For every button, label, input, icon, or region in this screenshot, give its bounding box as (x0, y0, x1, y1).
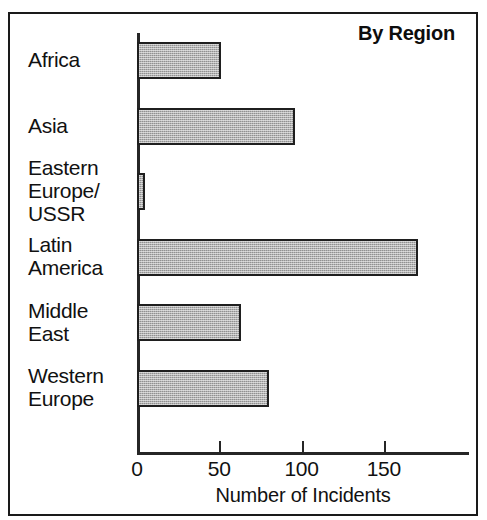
category-label-eastern-europe-ussr: EasternEurope/USSR (28, 156, 134, 225)
chart-title: By Region (358, 22, 455, 45)
category-label-line: Asia (28, 114, 134, 137)
bar-africa (137, 42, 221, 79)
category-label-line: America (28, 256, 134, 279)
category-label-middle-east: MiddleEast (28, 299, 134, 345)
category-label-line: Africa (28, 48, 134, 71)
x-tick-label-0: 0 (107, 457, 167, 481)
category-label-line: East (28, 322, 134, 345)
x-tick-label-50: 50 (189, 457, 249, 481)
x-axis-title: Number of Incidents (137, 484, 469, 507)
x-axis-line (137, 452, 469, 455)
category-label-line: Eastern (28, 156, 134, 179)
x-tick-100 (302, 441, 304, 452)
x-tick-50 (219, 441, 221, 452)
bar-chart-figure: By Region AfricaAsiaEasternEurope/USSRLa… (0, 0, 487, 520)
category-label-line: Latin (28, 233, 134, 256)
bar-middle-east (137, 304, 241, 341)
bar-eastern-europe-ussr (137, 173, 145, 210)
category-label-latin-america: LatinAmerica (28, 233, 134, 279)
category-label-line: Middle (28, 299, 134, 322)
category-label-line: Western (28, 364, 134, 387)
category-label-line: USSR (28, 202, 134, 225)
category-label-western-europe: WesternEurope (28, 364, 134, 410)
x-tick-150 (384, 441, 386, 452)
category-label-line: Europe (28, 387, 134, 410)
bar-asia (137, 108, 295, 145)
bar-latin-america (137, 239, 418, 276)
x-tick-label-100: 100 (272, 457, 332, 481)
x-tick-label-150: 150 (354, 457, 414, 481)
category-label-africa: Africa (28, 48, 134, 71)
bar-western-europe (137, 370, 269, 407)
category-label-asia: Asia (28, 114, 134, 137)
category-label-line: Europe/ (28, 179, 134, 202)
